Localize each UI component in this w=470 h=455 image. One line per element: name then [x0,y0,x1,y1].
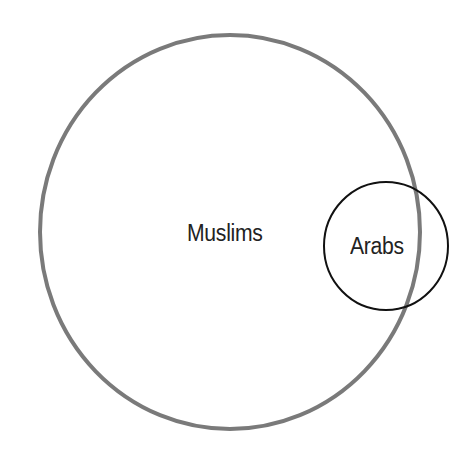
arabs-label: Arabs [350,235,404,258]
muslims-label: Muslims [187,222,263,245]
